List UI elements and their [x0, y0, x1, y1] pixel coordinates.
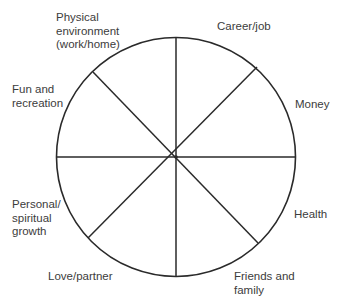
- label-physical-environment: Physical environment (work/home): [56, 11, 120, 52]
- label-personal-line-1: Personal/: [12, 198, 61, 212]
- label-personal-spiritual-growth: Personal/ spiritual growth: [12, 198, 61, 239]
- label-fun-line-2: recreation: [12, 97, 63, 111]
- label-career-job: Career/job: [217, 20, 271, 34]
- label-love-partner: Love/partner: [48, 270, 113, 284]
- label-personal-line-2: spiritual: [12, 212, 61, 226]
- label-personal-line-3: growth: [12, 225, 61, 239]
- wheel-center-dot: [174, 155, 178, 159]
- label-physical-line-2: environment: [56, 25, 120, 39]
- label-friends-and-family: Friends and family: [234, 270, 295, 297]
- label-health-line-1: Health: [294, 208, 327, 222]
- label-money-line-1: Money: [295, 98, 330, 112]
- label-friends-line-1: Friends and: [234, 270, 295, 284]
- wheel-of-life-diagram: [0, 0, 338, 308]
- label-friends-line-2: family: [234, 284, 295, 298]
- label-career-line-1: Career/job: [217, 20, 271, 34]
- label-love-line-1: Love/partner: [48, 270, 113, 284]
- label-fun-line-1: Fun and: [12, 83, 63, 97]
- label-fun-and-recreation: Fun and recreation: [12, 83, 63, 110]
- label-physical-line-1: Physical: [56, 11, 120, 25]
- label-physical-line-3: (work/home): [56, 38, 120, 52]
- label-health: Health: [294, 208, 327, 222]
- label-money: Money: [295, 98, 330, 112]
